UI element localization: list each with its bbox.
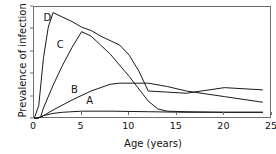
- x-tick-mark: [33, 112, 34, 115]
- x-tick-mark: [128, 112, 129, 115]
- x-tick-label: 0: [18, 120, 48, 131]
- series-line-c: [34, 32, 262, 119]
- x-tick-label: 20: [208, 120, 238, 131]
- y-tick-mark: [30, 95, 33, 96]
- y-tick-mark: [30, 28, 33, 29]
- plot-area: [33, 6, 271, 118]
- y-tick-mark: [30, 50, 33, 51]
- series-line-d: [34, 13, 262, 119]
- series-label-b: B: [71, 84, 78, 95]
- series-label-c: C: [57, 39, 64, 50]
- x-tick-label: 10: [113, 120, 143, 131]
- series-label-a: A: [86, 95, 93, 106]
- y-axis-label: Prevalence of infection: [17, 6, 28, 118]
- x-tick-label: 25: [256, 120, 276, 131]
- x-axis-label: Age (years): [33, 138, 273, 149]
- series-label-d: D: [43, 12, 51, 23]
- y-tick-mark: [30, 118, 33, 119]
- x-tick-mark: [176, 112, 177, 115]
- x-tick-mark: [271, 112, 272, 115]
- y-tick-mark: [30, 73, 33, 74]
- x-tick-label: 15: [161, 120, 191, 131]
- chart-figure: Prevalence of infection Age (years) 0204…: [0, 0, 276, 154]
- x-tick-mark: [223, 112, 224, 115]
- x-tick-mark: [81, 112, 82, 115]
- chart-lines: [34, 7, 272, 119]
- y-tick-mark: [30, 6, 33, 7]
- x-tick-label: 5: [66, 120, 96, 131]
